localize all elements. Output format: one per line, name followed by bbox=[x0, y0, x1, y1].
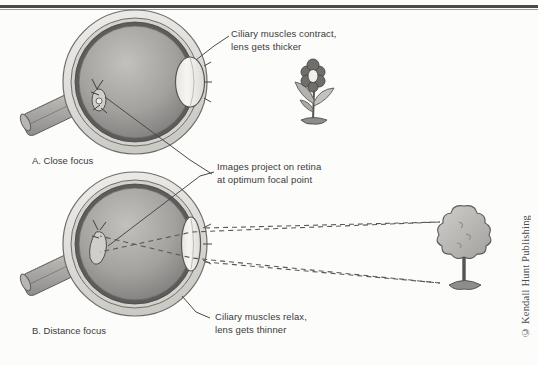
leader-line-ciliary-contract bbox=[196, 36, 229, 60]
panel-label-a: A. Close focus bbox=[32, 155, 93, 166]
callout-retina-projection: Images project on retinaat optimum focal… bbox=[217, 161, 321, 186]
callout-ciliary-relax-line2: lens gets thinner bbox=[215, 324, 286, 335]
vitreous-A bbox=[79, 26, 191, 138]
figure-canvas: Ciliary muscles contract,lens gets thick… bbox=[0, 0, 538, 365]
lens-thick-A bbox=[176, 57, 205, 107]
callout-ciliary-relax-line1: Ciliary muscles relax, bbox=[215, 311, 307, 322]
callout-ciliary-contract-line2: lens gets thicker bbox=[231, 41, 301, 52]
leader-line-ciliary-relax bbox=[182, 296, 210, 318]
eye-distance-focus bbox=[18, 172, 440, 318]
callout-retina-projection-line2: at optimum focal point bbox=[217, 174, 312, 185]
panel-label-b: B. Distance focus bbox=[32, 325, 106, 336]
flower-near-object bbox=[295, 59, 334, 124]
callout-ciliary-contract-line1: Ciliary muscles contract, bbox=[231, 28, 336, 39]
tree-far-object bbox=[437, 206, 491, 290]
callout-ciliary-relax: Ciliary muscles relax,lens gets thinner bbox=[215, 311, 307, 336]
callout-ciliary-contract: Ciliary muscles contract,lens gets thick… bbox=[231, 28, 336, 53]
lens-thin-B bbox=[182, 217, 201, 271]
callout-retina-projection-line1: Images project on retina bbox=[217, 161, 321, 172]
copyright-notice: © Kendall Hunt Publishing bbox=[520, 198, 536, 338]
